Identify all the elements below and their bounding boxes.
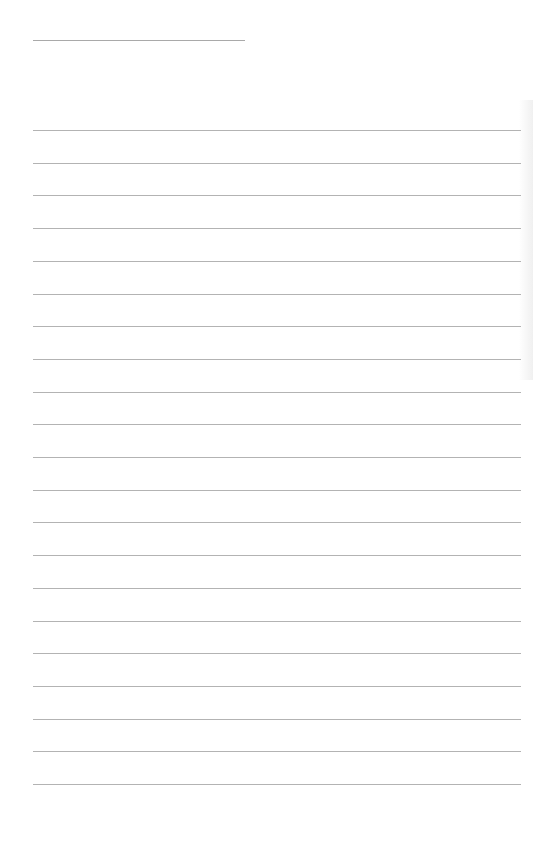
ruled-line bbox=[33, 228, 521, 229]
ruled-line bbox=[33, 686, 521, 687]
ruled-line bbox=[33, 719, 521, 720]
ruled-line bbox=[33, 653, 521, 654]
ruled-line bbox=[33, 522, 521, 523]
ruled-line bbox=[33, 751, 521, 752]
lined-paper-page bbox=[0, 0, 533, 849]
ruled-line bbox=[33, 424, 521, 425]
ruled-line bbox=[33, 621, 521, 622]
header-name-line bbox=[33, 40, 245, 41]
ruled-line bbox=[33, 490, 521, 491]
ruled-line bbox=[33, 163, 521, 164]
ruled-line bbox=[33, 359, 521, 360]
ruled-line bbox=[33, 130, 521, 131]
ruled-line bbox=[33, 294, 521, 295]
ruled-line bbox=[33, 588, 521, 589]
ruled-line bbox=[33, 457, 521, 458]
ruled-line bbox=[33, 784, 521, 785]
ruled-line bbox=[33, 392, 521, 393]
ruled-line bbox=[33, 261, 521, 262]
ruled-line bbox=[33, 555, 521, 556]
ruled-line bbox=[33, 195, 521, 196]
ruled-line bbox=[33, 326, 521, 327]
page-edge-shadow bbox=[519, 100, 533, 380]
